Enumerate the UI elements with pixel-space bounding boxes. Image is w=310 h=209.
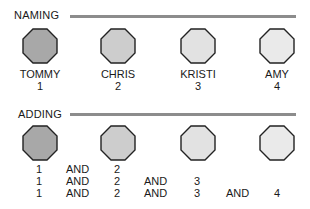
naming-label: NAMING <box>14 9 59 21</box>
octagon-icon-3 <box>180 125 216 161</box>
adding-label: ADDING <box>18 108 62 120</box>
adding-cell: AND <box>144 175 167 187</box>
adding-divider <box>70 113 296 116</box>
adding-cell: AND <box>226 187 249 199</box>
person-number: 2 <box>108 80 128 92</box>
octagon-icon-chris <box>100 28 136 64</box>
adding-cell: 2 <box>114 175 120 187</box>
adding-cell: AND <box>144 187 167 199</box>
octagon-icon-4 <box>259 125 295 161</box>
adding-cell: AND <box>66 187 89 199</box>
octagon-icon-tommy <box>22 28 58 64</box>
adding-cell: 2 <box>114 187 120 199</box>
person-number: 3 <box>188 80 208 92</box>
adding-cell: AND <box>66 163 89 175</box>
octagon-icon-2 <box>100 125 136 161</box>
adding-cell: 3 <box>194 187 200 199</box>
person-name: KRISTI <box>168 68 228 80</box>
octagon-icon-kristi <box>180 28 216 64</box>
person-number: 4 <box>267 80 287 92</box>
octagon-icon-amy <box>259 28 295 64</box>
person-name: CHRIS <box>88 68 148 80</box>
adding-cell: AND <box>66 175 89 187</box>
person-number: 1 <box>30 80 50 92</box>
person-name: AMY <box>247 68 307 80</box>
adding-cell: 3 <box>194 175 200 187</box>
adding-cell: 1 <box>36 163 42 175</box>
adding-cell: 2 <box>114 163 120 175</box>
naming-divider <box>70 15 296 18</box>
adding-cell: 1 <box>36 175 42 187</box>
person-name: TOMMY <box>10 68 70 80</box>
adding-cell: 1 <box>36 187 42 199</box>
adding-cell: 4 <box>274 187 280 199</box>
octagon-icon-1 <box>22 125 58 161</box>
